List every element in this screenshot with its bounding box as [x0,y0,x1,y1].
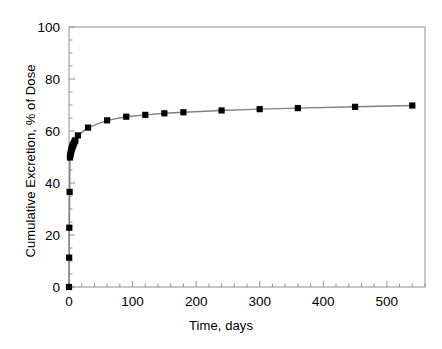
y-tick-label: 100 [37,20,60,35]
y-tick-label: 60 [45,124,60,139]
data-point-marker [66,284,72,290]
data-point-marker [295,105,301,111]
series-line [69,106,412,287]
x-axis-title: Time, days [0,318,442,333]
data-point-marker [257,106,263,112]
data-point-marker [180,109,186,115]
y-axis-title-wrapper: Cumulative Excretion, % of Dose [21,21,39,301]
data-point-marker [104,117,110,123]
y-axis-tick-labels: 020406080100 [37,20,60,295]
y-tick-label: 80 [45,72,60,87]
data-point-marker [66,255,72,261]
data-point-marker [218,107,224,113]
series-markers [66,102,415,290]
y-axis-title: Cumulative Excretion, % of Dose [23,64,38,257]
x-tick-label: 0 [65,294,73,309]
data-point-marker [67,189,73,195]
data-point-marker [161,110,167,116]
data-point-marker [66,225,72,231]
data-point-marker [75,132,81,138]
x-axis-ticks [69,281,425,287]
data-point-marker [85,125,91,131]
x-tick-label: 300 [248,294,271,309]
data-point-marker [123,114,129,120]
data-point-marker [409,102,415,108]
y-tick-label: 40 [45,176,60,191]
y-tick-label: 0 [52,280,60,295]
plot-frame [69,27,425,287]
chart-figure: 0100200300400500 020406080100 Cumulative… [0,0,442,349]
data-point-marker [352,104,358,110]
x-tick-label: 200 [185,294,208,309]
x-tick-label: 500 [376,294,399,309]
x-tick-label: 100 [121,294,144,309]
data-point-marker [142,112,148,118]
x-tick-label: 400 [312,294,335,309]
cumulative-excretion-plot: 0100200300400500 020406080100 [0,0,442,349]
x-axis-tick-labels: 0100200300400500 [65,294,398,309]
y-tick-label: 20 [45,228,60,243]
